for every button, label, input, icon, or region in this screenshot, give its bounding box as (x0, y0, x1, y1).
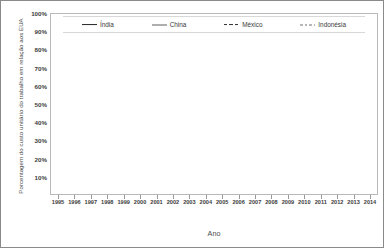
x-tickmark-2005 (222, 195, 223, 199)
legend-label-méxico: México (242, 21, 262, 28)
x-tick-2014: 2014 (359, 199, 381, 205)
legend-swatch-indonésia (300, 22, 315, 28)
x-tickmark-2000 (140, 195, 141, 199)
y-tick-40: 40% (21, 119, 47, 126)
x-tickmark-2010 (304, 195, 305, 199)
legend-label-china: China (170, 21, 187, 28)
x-tickmark-2008 (271, 195, 272, 199)
x-tickmark-2009 (288, 195, 289, 199)
x-tickmark-2013 (354, 195, 355, 199)
legend-label-índia: Índia (100, 21, 114, 28)
y-tick-100: 100% (21, 10, 47, 17)
x-tickmark-1997 (91, 195, 92, 199)
x-tickmark-2006 (239, 195, 240, 199)
legend-swatch-índia (82, 22, 97, 28)
x-tickmark-2002 (173, 195, 174, 199)
y-tick-70: 70% (21, 64, 47, 71)
legend-item-indonésia[interactable]: Indonésia (300, 21, 346, 28)
x-tickmark-2007 (255, 195, 256, 199)
legend-item-china[interactable]: China (152, 21, 187, 28)
x-tickmark-1995 (58, 195, 59, 199)
y-tick-60: 60% (21, 82, 47, 89)
plot-frame (50, 13, 378, 195)
x-tickmark-1996 (74, 195, 75, 199)
legend-item-índia[interactable]: Índia (82, 21, 114, 28)
x-axis-tick-labels: 1995199619971998199920002001200220032004… (50, 199, 378, 213)
chart-legend: ÍndiaChinaMéxicoIndonésia (63, 16, 365, 33)
y-tick-10: 10% (21, 173, 47, 180)
x-tickmark-2003 (189, 195, 190, 199)
y-tick-90: 90% (21, 28, 47, 35)
y-tick-30: 30% (21, 137, 47, 144)
y-tick-50: 50% (21, 101, 47, 108)
y-tick-20: 20% (21, 155, 47, 162)
plot-area (50, 13, 378, 195)
legend-swatch-méxico (224, 22, 239, 28)
x-axis-title: Ano (49, 229, 379, 238)
x-tickmark-2001 (157, 195, 158, 199)
y-tick-80: 80% (21, 46, 47, 53)
x-tickmark-2011 (321, 195, 322, 199)
x-tickmark-1999 (124, 195, 125, 199)
x-tickmark-1998 (107, 195, 108, 199)
y-axis-tick-labels: 10%20%30%40%50%60%70%80%90%100% (21, 9, 47, 209)
legend-swatch-china (152, 22, 167, 28)
x-tickmark-2012 (337, 195, 338, 199)
legend-item-méxico[interactable]: México (224, 21, 262, 28)
x-tickmark-2014 (370, 195, 371, 199)
legend-label-indonésia: Indonésia (318, 21, 346, 28)
x-tickmark-2004 (206, 195, 207, 199)
chart-figure: Porcentagem do custo unitário do trabalh… (0, 0, 384, 248)
